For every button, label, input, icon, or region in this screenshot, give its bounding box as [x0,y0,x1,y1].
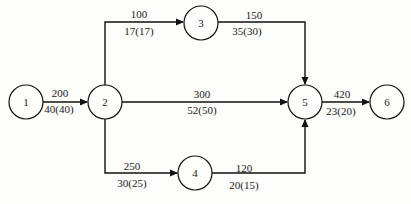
node-3-label: 3 [198,17,204,29]
edge-2-4 [105,119,177,173]
edge-1-2-flow: 40(40) [44,103,73,115]
network-diagram: 1 2 3 4 5 6 200 40(40) 100 17(17) 300 52… [0,0,411,204]
node-1-label: 1 [23,96,29,108]
edge-2-5-flow: 52(50) [187,104,216,116]
edge-3-5-capacity: 150 [246,9,263,21]
node-6-label: 6 [384,96,390,108]
edge-4-5 [212,120,305,173]
diagram-lines [0,0,411,204]
node-5-label: 5 [302,96,308,108]
edge-2-4-capacity: 250 [124,160,141,172]
node-4-label: 4 [192,167,198,179]
edge-2-5-capacity: 300 [194,88,211,100]
edge-2-4-flow: 30(25) [117,177,146,189]
edge-2-3-flow: 17(17) [124,25,153,37]
edge-2-3-capacity: 100 [131,8,148,20]
node-2-label: 2 [102,96,108,108]
edge-5-6-flow: 23(20) [326,105,355,117]
edge-3-5-flow: 35(30) [232,25,261,37]
edge-1-2-capacity: 200 [52,87,69,99]
edge-4-5-flow: 20(15) [229,179,258,191]
edge-4-5-capacity: 120 [236,162,253,174]
edge-5-6-capacity: 420 [334,88,351,100]
